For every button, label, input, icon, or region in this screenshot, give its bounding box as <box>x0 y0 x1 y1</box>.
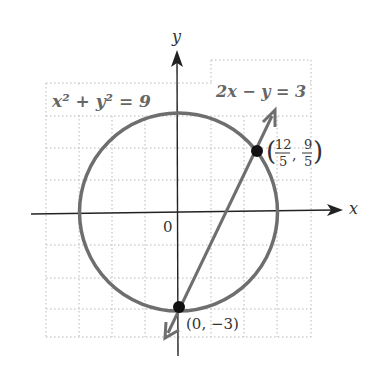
intersection-point-2 <box>173 301 185 313</box>
frac-y-numerator: 9 <box>304 137 312 152</box>
paren-close: ) <box>313 136 323 166</box>
y-axis-label: y <box>171 27 182 46</box>
point-label-12-5-9-5: ( 12 5 , 9 5 ) <box>266 136 323 169</box>
intersection-point-1 <box>251 145 263 157</box>
frac-x-denominator: 5 <box>279 154 287 169</box>
graph-figure: y x 0 x² + y² = 9 2x − y = 3 (0, −3) ( 1… <box>0 0 372 375</box>
point-label-0-neg3: (0, −3) <box>186 315 239 333</box>
x-axis-label: x <box>349 199 358 218</box>
circle-equation-label: x² + y² = 9 <box>51 91 151 111</box>
frac-x-numerator: 12 <box>275 137 292 152</box>
comma: , <box>292 147 296 163</box>
origin-label: 0 <box>163 218 173 236</box>
frac-y-denominator: 5 <box>304 154 312 169</box>
line-equation-label: 2x − y = 3 <box>215 82 306 101</box>
